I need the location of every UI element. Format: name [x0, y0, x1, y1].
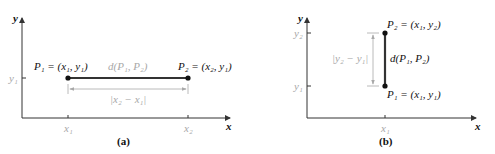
y-axis-label: y	[296, 12, 303, 24]
p2-label: P₂ = (x₂, y₁)	[177, 60, 232, 73]
point-p2	[382, 30, 387, 35]
point-p1	[65, 75, 70, 80]
tick-label-x1: x₁	[380, 122, 390, 134]
distance-diagram: y x y₁ x₁ x₂ P₁ = (x₁, y₁) P₂ = (x₂, y₁)…	[0, 0, 495, 154]
x-axis-label: x	[225, 120, 232, 132]
tick-label-y2: y₂	[293, 27, 303, 39]
panel-b: y x y₂ y₁ x₁ P₂ = (x₁, y₂) P₁ = (x₁, y₁)…	[293, 12, 481, 148]
tick-label-y1: y₁	[293, 80, 303, 92]
distance-label: d(P₁, P₂)	[108, 60, 148, 73]
distance-label: d(P₁, P₂)	[390, 52, 430, 65]
caption-b: (b)	[379, 135, 393, 148]
y-axis-label: y	[11, 12, 18, 24]
abs-difference-label: |x₂ − x₁|	[110, 93, 146, 105]
point-p2	[185, 75, 190, 80]
p1-label: P₁ = (x₁, y₁)	[33, 60, 88, 73]
abs-difference-label: |y₂ − y₁|	[332, 52, 368, 64]
p2-label: P₂ = (x₁, y₂)	[386, 18, 441, 31]
caption-a: (a)	[117, 135, 130, 148]
tick-label-x2: x₂	[183, 122, 193, 134]
tick-label-y1: y₁	[8, 72, 18, 84]
panel-a: y x y₁ x₁ x₂ P₁ = (x₁, y₁) P₂ = (x₂, y₁)…	[8, 12, 232, 148]
x-axis-label: x	[474, 120, 481, 132]
tick-label-x1: x₁	[63, 122, 73, 134]
p1-label: P₁ = (x₁, y₁)	[386, 88, 441, 101]
